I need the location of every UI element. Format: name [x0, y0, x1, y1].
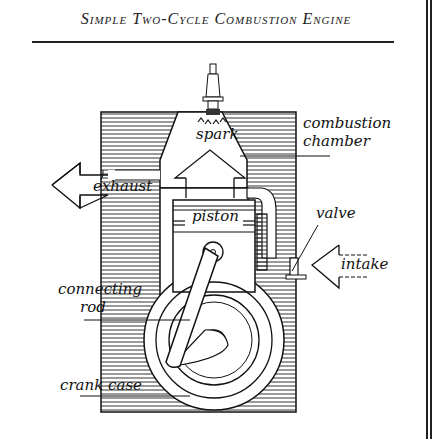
label-valve: valve: [316, 204, 356, 222]
label-rod: rod: [80, 298, 106, 316]
label-piston: piston: [192, 207, 239, 225]
label-combustion: combustion: [303, 114, 391, 132]
label-crank-case: crank case: [60, 376, 142, 394]
label-connecting: connecting: [58, 280, 142, 298]
cylinder-wall-fin: [257, 214, 267, 270]
label-exhaust: exhaust: [93, 177, 153, 195]
engine-diagram: spark combustion chamber exhaust piston …: [0, 0, 432, 439]
label-spark: spark: [196, 125, 239, 143]
label-intake: intake: [341, 255, 389, 273]
label-chamber: chamber: [303, 132, 371, 150]
